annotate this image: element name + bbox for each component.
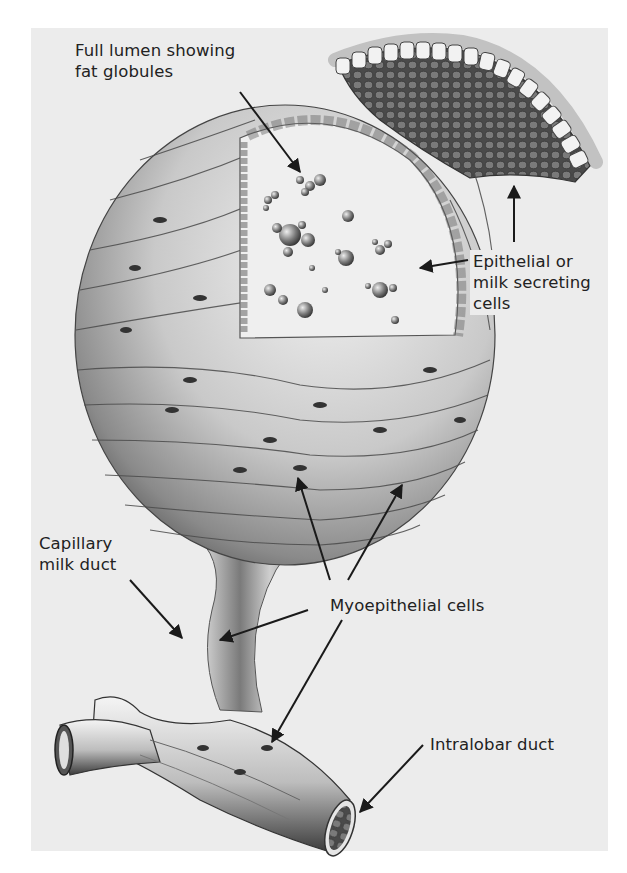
myo-arrow-4 [272, 620, 342, 742]
intralobar-duct-drawing [55, 697, 361, 860]
label-myoepithelial: Myoepithelial cells [330, 595, 484, 616]
label-intralobar-duct: Intralobar duct [430, 734, 554, 755]
label-lumen: Full lumen showing fat globules [75, 40, 235, 82]
intralobar-arrow [360, 745, 423, 812]
label-epithelial-line1: Epithelial or [473, 251, 591, 272]
capillary-arrow [130, 580, 182, 638]
capillary-duct-drawing [200, 540, 300, 712]
alveolus-sphere [75, 105, 495, 565]
label-epithelial-line3: cells [473, 293, 591, 314]
label-lumen-line1: Full lumen showing [75, 40, 235, 61]
label-epithelial-line2: milk secreting [473, 272, 591, 293]
label-capillary-line1: Capillary [39, 533, 116, 554]
label-lumen-line2: fat globules [75, 61, 235, 82]
label-epithelial: Epithelial or milk secreting cells [470, 250, 594, 315]
label-capillary-line2: milk duct [39, 554, 116, 575]
label-capillary-duct: Capillary milk duct [39, 533, 116, 575]
